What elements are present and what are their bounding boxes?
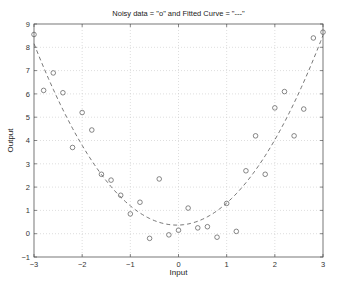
y-tick-label: −1 — [21, 253, 30, 262]
y-axis-label: Output — [6, 128, 15, 153]
y-tick-label: 2 — [26, 183, 30, 192]
grid-lines — [34, 24, 323, 257]
data-point-marker — [234, 229, 239, 234]
data-point-marker — [61, 90, 66, 95]
data-point-marker — [292, 134, 297, 139]
x-tick-label: −1 — [126, 260, 135, 269]
data-point-marker — [195, 226, 200, 231]
data-point-marker — [282, 89, 287, 94]
data-point-marker — [311, 36, 316, 41]
chart-title: Noisy data = "o" and Fitted Curve = "---… — [112, 9, 245, 18]
x-tick-label: −2 — [78, 260, 87, 269]
chart-figure: Noisy data = "o" and Fitted Curve = "---… — [0, 0, 343, 286]
data-point-marker — [51, 71, 56, 76]
y-tick-labels: −10123456789 — [21, 20, 30, 262]
y-tick-label: 1 — [26, 206, 30, 215]
data-point-marker — [109, 178, 114, 183]
y-tick-label: 3 — [26, 160, 30, 169]
x-axis-label: Input — [170, 268, 189, 277]
x-tick-label: 2 — [273, 260, 277, 269]
y-tick-label: 4 — [26, 136, 30, 145]
x-tick-label: 3 — [321, 260, 325, 269]
data-point-marker — [138, 200, 143, 205]
y-tick-label: 0 — [26, 229, 30, 238]
data-point-marker — [205, 224, 210, 229]
data-point-marker — [147, 236, 152, 241]
y-tick-label: 6 — [26, 90, 30, 99]
data-point-marker — [70, 145, 75, 150]
data-point-marker — [301, 107, 306, 112]
data-point-marker — [167, 233, 172, 238]
x-tick-label: 1 — [225, 260, 229, 269]
x-tick-label: −3 — [30, 260, 39, 269]
data-point-marker — [244, 168, 249, 173]
data-point-marker — [41, 88, 46, 93]
data-point-marker — [90, 128, 95, 133]
y-tick-label: 7 — [26, 66, 30, 75]
y-tick-label: 8 — [26, 43, 30, 52]
data-point-marker — [253, 134, 258, 139]
data-point-marker — [215, 235, 220, 240]
y-tick-label: 9 — [26, 20, 30, 29]
data-point-marker — [157, 177, 162, 182]
data-point-marker — [263, 172, 268, 177]
data-point-marker — [186, 206, 191, 211]
data-point-marker — [273, 106, 278, 111]
y-tick-label: 5 — [26, 113, 30, 122]
